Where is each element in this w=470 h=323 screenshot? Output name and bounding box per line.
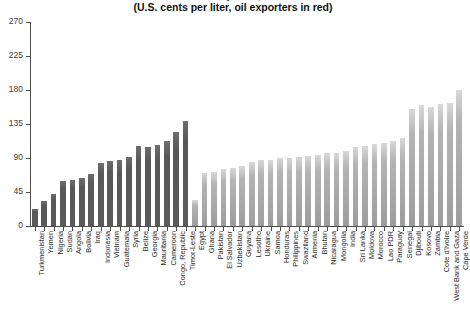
x-axis-tick-label: Morocco — [377, 231, 384, 259]
x-axis-tick-label: Congo, Republic — [179, 231, 186, 286]
x-axis-tick-label: Kosovo — [425, 231, 432, 256]
x-axis-tick-label: Zambia — [434, 231, 441, 256]
x-axis-tick-label: Egypt — [198, 231, 205, 250]
bar — [136, 146, 142, 226]
x-axis-tick-label: Samoa — [274, 231, 281, 254]
x-axis-tick-label: Ukraine — [264, 231, 271, 256]
y-axis-tick-label: 90 — [14, 152, 23, 162]
bar — [192, 200, 198, 226]
x-axis-tick-mark — [82, 227, 83, 231]
x-axis-tick-mark — [54, 227, 55, 231]
x-axis-tick-mark — [365, 227, 366, 231]
x-axis-tick-label: Cape Verde — [462, 231, 469, 270]
x-axis-tick-mark — [280, 227, 281, 231]
x-axis-tick-mark — [205, 227, 206, 231]
bar — [173, 132, 179, 226]
y-axis-tick-label: 0 — [18, 220, 23, 230]
bar — [183, 121, 189, 226]
bar — [126, 157, 132, 226]
bar — [107, 161, 113, 226]
y-axis-tick-label: 225 — [9, 50, 23, 60]
x-axis-tick-label: Ghana — [208, 231, 215, 253]
x-axis-tick-label: India — [349, 231, 356, 247]
bar — [353, 147, 359, 226]
bar — [315, 155, 321, 226]
bar — [456, 90, 462, 226]
bar — [211, 172, 217, 226]
bar — [155, 145, 161, 226]
x-axis-tick-label: Swaziland — [302, 231, 309, 265]
bar — [145, 147, 151, 226]
bar — [51, 194, 57, 226]
x-axis-tick-label: Sri Lanka — [359, 231, 366, 262]
bar — [202, 173, 208, 226]
bar — [60, 181, 66, 226]
chart-title-block: Gasoline prices, 2012 (U.S. cents per li… — [0, 0, 466, 13]
x-axis-tick-label: Bhutan — [321, 231, 328, 254]
x-axis-tick-label: Angola — [75, 231, 82, 254]
x-axis-tick-mark — [356, 227, 357, 231]
x-axis-tick-mark — [101, 227, 102, 231]
x-axis-tick-label: Turkmenistan — [38, 231, 45, 276]
x-axis-tick-label: Mongolia — [340, 231, 347, 261]
x-axis-tick-mark — [44, 227, 45, 231]
bar — [447, 103, 453, 226]
x-axis-tick-label: Guatemala — [123, 231, 130, 267]
x-axis-tick-mark — [450, 227, 451, 231]
x-axis-tick-label: Philippines — [292, 231, 299, 267]
y-axis-tick-label: 270 — [9, 16, 23, 26]
x-axis-tick-mark — [63, 227, 64, 231]
x-axis-tick-label: Honduras — [283, 231, 290, 263]
x-axis-tick-label: Yemen — [47, 231, 54, 254]
bar — [305, 156, 311, 226]
bar — [70, 180, 76, 226]
bar — [419, 105, 425, 226]
bar — [362, 146, 368, 226]
bar — [79, 178, 85, 226]
bar — [98, 163, 104, 226]
bar — [239, 166, 245, 226]
bar — [268, 160, 274, 226]
chart-subtitle: (U.S. cents per liter, oil exporters in … — [0, 1, 466, 13]
x-axis-tick-label: Vietnam — [113, 231, 120, 258]
x-axis-tick-mark — [431, 227, 432, 231]
x-axis-labels: TurkmenistanYemenNigeriaSudanAngolaBoliv… — [30, 231, 464, 323]
bar — [249, 162, 255, 226]
x-axis-tick-label: Nigeria — [57, 231, 64, 254]
bar — [381, 143, 387, 226]
bar — [221, 169, 227, 226]
bar — [277, 158, 283, 226]
bar — [117, 160, 123, 226]
bar-series — [30, 22, 464, 226]
bar — [324, 153, 330, 226]
bar — [164, 141, 170, 226]
y-axis-tick-label: 45 — [14, 186, 23, 196]
x-axis-tick-mark — [148, 227, 149, 231]
y-axis-tick-label: 180 — [9, 84, 23, 94]
x-axis-tick-label: West Bank and Gaza — [453, 231, 460, 301]
x-axis-tick-mark — [346, 227, 347, 231]
bar — [390, 141, 396, 226]
x-axis-tick-mark — [120, 227, 121, 231]
x-axis-tick-label: Senegal — [406, 231, 413, 258]
x-axis-tick-label: Belize — [142, 231, 149, 251]
x-axis-tick-mark — [214, 227, 215, 231]
x-axis-tick-label: Nicaragua — [330, 231, 337, 265]
x-axis-tick-label: Timor-Leste — [189, 231, 196, 270]
x-axis-tick-label: Armenia — [311, 231, 318, 259]
bar — [32, 209, 38, 226]
bar — [400, 138, 406, 226]
x-axis-tick-label: Iraq — [94, 231, 101, 244]
x-axis-tick-mark — [261, 227, 262, 231]
y-axis-tick-label: 135 — [9, 118, 23, 128]
x-axis-tick-label: Indonesia — [104, 231, 111, 263]
bar — [258, 160, 264, 226]
x-axis-tick-label: Cote d'Ivoire — [443, 231, 450, 272]
x-axis-tick-label: Guyana — [245, 231, 252, 257]
x-axis-tick-label: Uzbekistan — [236, 231, 243, 268]
x-axis-tick-mark — [110, 227, 111, 231]
x-axis-tick-label: Moldova — [368, 231, 375, 259]
x-axis-tick-mark — [129, 227, 130, 231]
x-axis-tick-mark — [384, 227, 385, 231]
